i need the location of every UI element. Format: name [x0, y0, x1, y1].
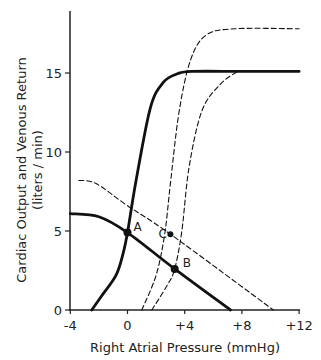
y-tick-label: 10 — [45, 145, 62, 160]
y-ticks: 051015 — [45, 66, 70, 318]
point-label-c: C — [158, 227, 166, 241]
point-label-a: A — [134, 220, 143, 234]
point-label-b: B — [183, 256, 191, 270]
y-axis-title: Cardiac Output and Venous Return — [14, 57, 29, 283]
y-tick-label: 5 — [54, 224, 62, 239]
normal-venous-return-curve — [70, 214, 230, 310]
x-tick-label: +12 — [285, 318, 312, 333]
increased-venous-return-curve — [79, 180, 273, 310]
x-ticks: -40+4+8+12 — [64, 310, 313, 333]
x-tick-label: +8 — [232, 318, 251, 333]
x-tick-label: 0 — [123, 318, 131, 333]
x-tick-label: -4 — [64, 318, 77, 333]
point-c — [167, 231, 173, 237]
x-tick-label: +4 — [175, 318, 194, 333]
annotation-points: ABC — [124, 220, 191, 273]
y-tick-label: 0 — [54, 303, 62, 318]
shifted-cardiac-output-curve-normal — [152, 71, 238, 310]
point-a — [124, 229, 132, 237]
point-b — [171, 265, 179, 273]
y-axis-units: (liters / min) — [30, 130, 45, 210]
y-tick-label: 15 — [45, 66, 62, 81]
x-axis-title: Right Atrial Pressure (mmHg) — [90, 340, 280, 355]
normal-cardiac-output-curve — [92, 71, 299, 310]
cardiac-output-venous-return-chart: -40+4+8+12 051015 Right Atrial Pressure … — [0, 0, 321, 360]
